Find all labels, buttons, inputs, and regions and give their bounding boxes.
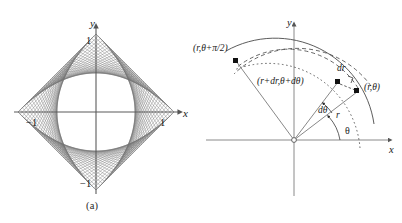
- theta-angle-arc: [329, 117, 340, 140]
- label-point-r-plus-dr: (r+dr,θ+dθ): [257, 76, 304, 87]
- point-marker-r-theta: [354, 88, 359, 93]
- panel-a-svg: x y −1 1 1 −1: [0, 0, 201, 200]
- label-r: r: [336, 110, 340, 120]
- origin-marker: [292, 138, 297, 143]
- dr-connector: [340, 84, 355, 90]
- caption-a: (a): [86, 200, 98, 211]
- y-tick-label-one-a: 1: [86, 35, 91, 46]
- panel-b-svg: x y: [190, 0, 402, 200]
- point-marker-r-theta-plus-half-pi: [233, 58, 238, 63]
- label-dr: dr: [337, 63, 346, 73]
- y-axis-label-a: y: [89, 17, 95, 29]
- label-dtheta: dθ: [318, 105, 328, 115]
- right-angle-mark: [348, 76, 353, 83]
- y-axis-label-b: y: [286, 17, 292, 28]
- point-marker-r-plus-dr: [335, 79, 340, 84]
- radius-segment-perpendicular: [236, 61, 294, 140]
- label-point-r-theta: (r,θ): [364, 82, 380, 93]
- x-tick-label-one-a: 1: [160, 117, 165, 128]
- x-axis-label-b: x: [388, 144, 394, 155]
- x-axis-label-a: x: [182, 107, 188, 119]
- figure-root: x y −1 1 1 −1 (a) x y: [0, 0, 402, 223]
- x-tick-label-neg-one-a: −1: [26, 117, 37, 128]
- label-theta: θ: [345, 125, 350, 136]
- label-point-r-theta-plus-half-pi: (r,θ+π/2): [193, 43, 228, 54]
- y-tick-label-neg-one-a: −1: [80, 178, 91, 189]
- panel-a: x y −1 1 1 −1 (a): [0, 0, 201, 223]
- panel-b: x y: [190, 0, 402, 223]
